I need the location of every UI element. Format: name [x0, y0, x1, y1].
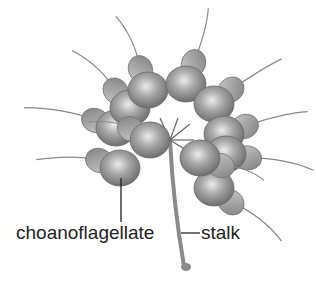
choanoflagellate-cell [166, 8, 210, 102]
stalk-label: stalk [201, 222, 240, 244]
cell-body [180, 140, 220, 176]
stalk-base [181, 263, 191, 271]
cell-body [130, 122, 170, 158]
colony-illustration [0, 0, 316, 290]
diagram-canvas: choanoflagellate stalk [0, 0, 316, 290]
choanoflagellate-label: choanoflagellate [16, 222, 154, 244]
cell-body [100, 150, 140, 186]
cell-body [128, 72, 168, 108]
choanoflagellate-cell [36, 144, 140, 186]
choanoflagellate-cells [24, 8, 313, 241]
choanoflagellate-cell [194, 59, 282, 122]
